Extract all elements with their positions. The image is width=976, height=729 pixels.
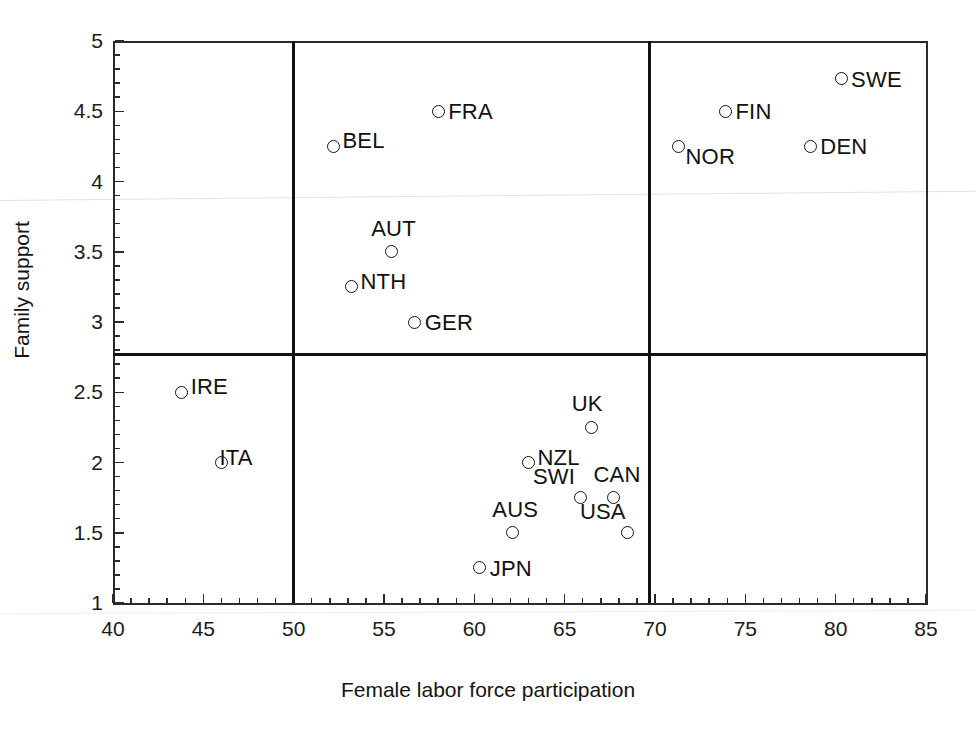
x-tick-minor xyxy=(365,598,367,603)
x-tick-minor xyxy=(419,598,421,603)
y-tick-minor xyxy=(115,153,120,155)
y-tick-label: 1 xyxy=(41,591,103,615)
y-tick-major xyxy=(115,111,124,113)
y-tick-minor xyxy=(115,574,120,576)
y-tick-minor xyxy=(115,96,120,98)
x-tick-label: 45 xyxy=(192,617,215,641)
x-tick-minor xyxy=(492,598,494,603)
vertical-divider-line xyxy=(292,41,295,603)
data-point-marker-uk[interactable] xyxy=(585,421,598,434)
y-tick-major xyxy=(115,181,124,183)
y-tick-label: 2.5 xyxy=(41,380,103,404)
y-tick-minor xyxy=(115,195,120,197)
y-tick-minor xyxy=(115,490,120,492)
x-tick-label: 80 xyxy=(824,617,847,641)
y-tick-minor xyxy=(115,54,120,56)
data-point-marker-fra[interactable] xyxy=(432,105,445,118)
y-tick-label: 4 xyxy=(41,170,103,194)
data-point-label-usa: USA xyxy=(580,499,626,525)
x-tick-label: 75 xyxy=(734,617,757,641)
x-tick-major xyxy=(474,594,476,603)
y-tick-minor xyxy=(115,82,120,84)
x-tick-minor xyxy=(456,598,458,603)
data-point-label-den: DEN xyxy=(820,134,867,160)
x-tick-label: 65 xyxy=(553,617,576,641)
y-tick-minor xyxy=(115,406,120,408)
x-tick-minor xyxy=(781,598,783,603)
data-point-label-nor: NOR xyxy=(685,144,735,170)
y-tick-major xyxy=(115,251,124,253)
x-tick-minor xyxy=(690,598,692,603)
x-tick-minor xyxy=(437,598,439,603)
x-tick-minor xyxy=(708,598,710,603)
data-point-marker-fin[interactable] xyxy=(719,105,732,118)
vertical-divider-line xyxy=(648,41,651,603)
x-axis-title: Female labor force participation xyxy=(0,678,976,702)
x-tick-minor xyxy=(871,598,873,603)
y-tick-minor xyxy=(115,209,120,211)
x-tick-minor xyxy=(311,598,313,603)
data-point-marker-usa[interactable] xyxy=(621,526,634,539)
data-point-label-aut: AUT xyxy=(371,216,416,242)
plot-top-border xyxy=(113,41,928,43)
data-point-marker-aus[interactable] xyxy=(506,526,519,539)
data-point-marker-jpn[interactable] xyxy=(473,561,486,574)
x-tick-minor xyxy=(239,598,241,603)
data-point-marker-bel[interactable] xyxy=(327,140,340,153)
x-tick-label: 70 xyxy=(643,617,666,641)
y-tick-minor xyxy=(115,125,120,127)
data-point-label-ger: GER xyxy=(425,310,473,336)
data-point-label-swi: SWI xyxy=(533,464,575,490)
x-tick-minor xyxy=(618,598,620,603)
x-tick-minor xyxy=(166,598,168,603)
y-tick-minor xyxy=(115,68,120,70)
y-tick-minor xyxy=(115,476,120,478)
data-point-label-ita: ITA xyxy=(219,445,252,471)
x-tick-minor xyxy=(817,598,819,603)
x-tick-minor xyxy=(546,598,548,603)
data-point-label-fra: FRA xyxy=(448,99,493,125)
x-tick-major xyxy=(835,594,837,603)
data-point-label-swe: SWE xyxy=(851,67,902,93)
horizontal-divider-line xyxy=(113,353,926,356)
x-tick-major xyxy=(745,594,747,603)
data-point-label-fin: FIN xyxy=(735,99,771,125)
x-tick-minor xyxy=(528,598,530,603)
data-point-marker-nor[interactable] xyxy=(672,140,685,153)
y-tick-label: 4.5 xyxy=(41,99,103,123)
y-tick-minor xyxy=(115,335,120,337)
x-tick-minor xyxy=(347,598,349,603)
y-tick-minor xyxy=(115,588,120,590)
x-tick-minor xyxy=(185,598,187,603)
data-point-marker-aut[interactable] xyxy=(385,245,398,258)
y-tick-label: 5 xyxy=(41,29,103,53)
y-tick-minor xyxy=(115,139,120,141)
x-axis-line xyxy=(113,603,928,605)
y-tick-minor xyxy=(115,518,120,520)
scan-artifact-line xyxy=(0,610,976,614)
x-tick-minor xyxy=(727,598,729,603)
x-tick-major xyxy=(564,594,566,603)
data-point-marker-ire[interactable] xyxy=(175,386,188,399)
x-tick-minor xyxy=(148,598,150,603)
data-point-marker-nth[interactable] xyxy=(345,280,358,293)
data-point-marker-swe[interactable] xyxy=(835,72,848,85)
y-tick-minor xyxy=(115,237,120,239)
y-tick-major xyxy=(115,321,124,323)
data-point-marker-den[interactable] xyxy=(804,140,817,153)
y-tick-minor xyxy=(115,349,120,351)
x-tick-minor xyxy=(221,598,223,603)
x-tick-minor xyxy=(636,598,638,603)
data-point-label-aus: AUS xyxy=(492,497,538,523)
y-tick-minor xyxy=(115,434,120,436)
y-tick-minor xyxy=(115,279,120,281)
data-point-marker-ger[interactable] xyxy=(408,316,421,329)
x-tick-label: 85 xyxy=(914,617,937,641)
x-tick-minor xyxy=(763,598,765,603)
y-tick-major xyxy=(115,602,124,604)
y-tick-minor xyxy=(115,167,120,169)
y-tick-minor xyxy=(115,293,120,295)
x-tick-minor xyxy=(275,598,277,603)
data-point-label-uk: UK xyxy=(572,391,603,417)
plot-right-border xyxy=(926,41,928,605)
